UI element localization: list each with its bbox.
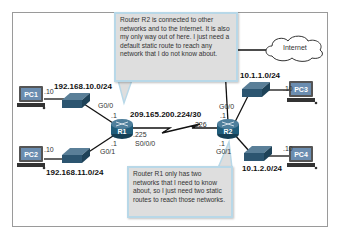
switch2-icon <box>62 148 90 163</box>
callout-r2-thought: Router R1 only has two networks that I n… <box>127 166 233 218</box>
router-r2-icon: R2 <box>217 119 239 139</box>
network-label-r2-lan2: 10.1.2.0/24 <box>242 164 282 173</box>
r2-g01-ip: .1 <box>219 140 225 148</box>
link-r2-sw3 <box>235 96 248 122</box>
r1-s000-label: S0/0/0 <box>135 140 155 148</box>
router-r1-icon: R1 <box>111 119 133 139</box>
callout-r2-text: Router R1 only has two networks that I n… <box>133 170 225 203</box>
network-label-r1-lan2: 192.168.11.0/24 <box>46 168 103 177</box>
pc2-icon: PC2 <box>17 146 45 169</box>
svg-text:PC1: PC1 <box>24 91 38 98</box>
svg-text:R2: R2 <box>224 128 233 135</box>
r2-g01-label: G0/1 <box>216 148 231 156</box>
svg-text:R1: R1 <box>118 128 127 135</box>
network-label-r2-lan1: 10.1.1.0/24 <box>240 71 280 80</box>
svg-text:PC4: PC4 <box>294 151 308 158</box>
r1-g01-label: G0/1 <box>100 148 115 156</box>
r1-g00-ip: .1 <box>111 112 117 120</box>
pc2-host-address: .10 <box>44 146 54 154</box>
r1-g00-label: G0/0 <box>98 102 113 110</box>
pc4-host-address: .10 <box>283 145 293 153</box>
r1-s000-ip: .225 <box>133 131 147 139</box>
network-label-r1-lan1: 192.168.10.0/24 <box>54 82 112 91</box>
callout-r1-text: Router R2 is connected to other networks… <box>120 16 230 57</box>
pc1-icon: PC1 <box>17 86 45 109</box>
callout-r1-thought: Router R2 is connected to other networks… <box>114 12 238 82</box>
r2-g00-label: G0/0 <box>219 103 234 111</box>
pc3-host-address: .10 <box>283 85 293 93</box>
r2-serial-ip: .226 <box>193 121 207 129</box>
internet-label: Internet <box>283 44 307 51</box>
r1-g01-ip: .1 <box>111 140 117 148</box>
switch4-icon <box>244 146 272 161</box>
network-label-serial: 209.165.200.224/30 <box>130 110 201 119</box>
callout-r1-pointer <box>118 80 132 103</box>
r2-g00-ip: .1 <box>220 112 226 120</box>
switch3-icon <box>242 82 270 97</box>
svg-text:PC2: PC2 <box>24 151 38 158</box>
svg-text:PC3: PC3 <box>294 86 308 93</box>
pc1-host-address: .10 <box>44 88 54 96</box>
